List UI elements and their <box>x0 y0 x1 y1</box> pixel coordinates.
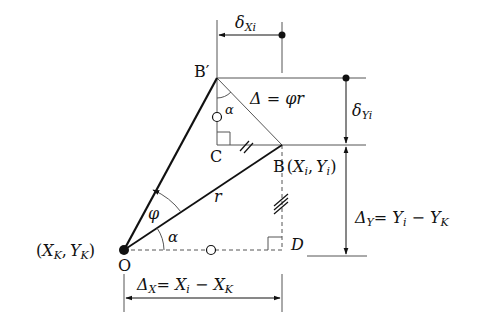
right-angle-d-icon <box>268 237 282 250</box>
label-bprime: B′ <box>194 62 210 81</box>
delta-xi-dimension: δXi <box>217 13 286 78</box>
equal-mark-cb-icon <box>240 141 253 153</box>
label-alpha-top: α <box>225 102 234 117</box>
equal-mark-db-icon <box>274 194 288 214</box>
point-dot-icon <box>343 75 350 82</box>
label-o: O <box>118 256 131 275</box>
label-alpha-bottom: α <box>168 228 178 246</box>
delta-yi-dimension: δYi <box>343 75 373 144</box>
label-r: r <box>214 187 223 206</box>
label-d: D <box>290 235 304 254</box>
delta-x-dimension: ΔX= Xi − XK <box>124 274 282 312</box>
angle-alpha-arc <box>157 228 164 250</box>
delta-x-label: ΔX= Xi − XK <box>136 275 234 296</box>
label-b: B(Xi,Yi) <box>273 157 336 178</box>
delta-y-dimension: ΔY= Yi − YK <box>346 147 450 254</box>
right-angle-c-icon <box>217 132 230 145</box>
point-o-icon <box>119 245 129 255</box>
label-delta-phi-r: Δ = φr <box>249 89 305 108</box>
delta-xi-label: δXi <box>235 13 256 34</box>
delta-y-label: ΔY= Yi − YK <box>354 208 450 229</box>
delta-yi-label: δYi <box>352 101 372 122</box>
line-o-b <box>124 145 282 250</box>
rotation-geometry-diagram: δXi δYi ΔY= Yi − YK ΔX= Xi − XK <box>0 0 497 336</box>
equal-mark-od-circle-icon <box>207 246 216 255</box>
line-o-bprime <box>124 78 217 250</box>
equal-mark-bprimec-circle-icon <box>213 113 222 122</box>
label-o-coord: (XK,YK) <box>36 241 95 262</box>
angle-alpha-top-arc <box>217 92 231 98</box>
label-c: C <box>210 147 222 166</box>
point-dot-icon <box>279 32 286 39</box>
label-phi: φ <box>148 204 160 223</box>
